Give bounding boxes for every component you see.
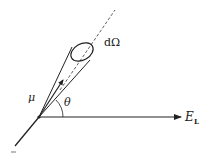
mu-label: μ xyxy=(28,91,35,104)
origin-point xyxy=(37,115,40,118)
theta-label: θ xyxy=(64,96,71,109)
field-subscript-label: L xyxy=(194,117,199,126)
dashed-direction-line xyxy=(60,10,115,90)
incident-line xyxy=(15,117,39,146)
mu-vector-arrow xyxy=(39,80,63,117)
theta-arc xyxy=(56,100,63,117)
solid-angle-label: dΩ xyxy=(104,36,120,49)
diagram-canvas: dΩ μ θ E L xyxy=(0,0,206,160)
field-label: E xyxy=(184,110,194,124)
